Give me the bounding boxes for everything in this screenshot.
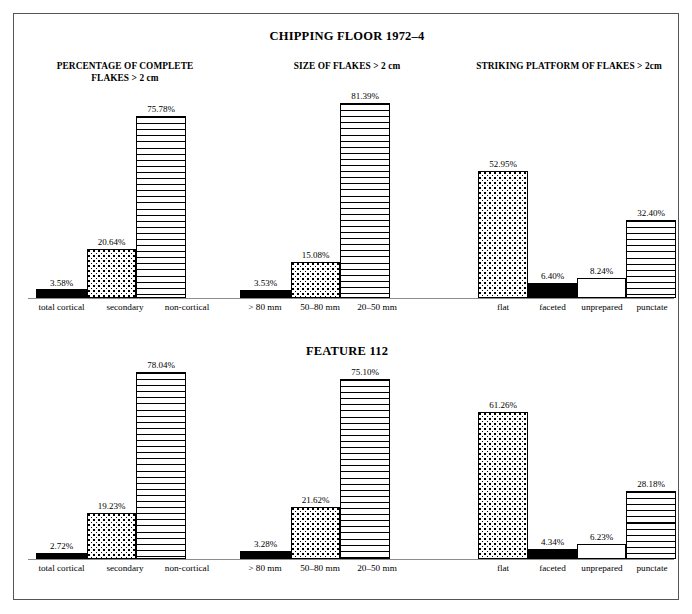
- value-label-20-50mm: 75.10%: [340, 367, 390, 377]
- value-label-flat: 61.26%: [478, 400, 528, 410]
- cat-label-secondary: secondary: [94, 563, 156, 574]
- value-label-punctate: 28.18%: [626, 479, 676, 489]
- chart-striking-platform-top: 52.95% 6.40% 8.24% 32.40% flat faceted u…: [458, 14, 680, 314]
- value-label-faceted: 4.34%: [528, 537, 577, 547]
- bar-unprepared[interactable]: [577, 544, 626, 559]
- bar-gt-80mm[interactable]: [240, 290, 291, 299]
- cat-label-flat: flat: [478, 563, 528, 574]
- cat-label-unprepared: unprepared: [571, 563, 633, 574]
- chart-percentage-complete-bottom: 2.72% 19.23% 78.04% total cortical secon…: [14, 314, 236, 601]
- cat-label-20-50mm: 20–50 mm: [346, 302, 408, 313]
- value-label-20-50mm: 81.39%: [340, 91, 390, 101]
- chart-size-of-flakes-top: 3.53% 15.08% 81.39% > 80 mm 50–80 mm 20–…: [236, 14, 458, 314]
- value-label-faceted: 6.40%: [528, 271, 577, 281]
- value-label-unprepared: 8.24%: [577, 266, 626, 276]
- bar-punctate[interactable]: [626, 220, 676, 298]
- bar-20-50mm[interactable]: [340, 103, 390, 298]
- value-label-50-80mm: 21.62%: [291, 495, 340, 505]
- cat-label-secondary: secondary: [94, 302, 156, 313]
- panel-chipping-floor: CHIPPING FLOOR 1972–4 PERCENTAGE OF COMP…: [14, 14, 680, 314]
- value-label-secondary: 19.23%: [87, 501, 136, 511]
- cat-label-flat: flat: [478, 302, 528, 313]
- bar-secondary[interactable]: [87, 249, 136, 299]
- bar-faceted[interactable]: [528, 283, 577, 298]
- value-label-unprepared: 6.23%: [577, 532, 626, 542]
- bar-flat[interactable]: [478, 412, 528, 559]
- cat-label-non-cortical: non-cortical: [152, 563, 222, 574]
- bar-50-80mm[interactable]: [291, 262, 340, 298]
- value-label-total-cortical: 3.58%: [36, 278, 87, 288]
- bar-20-50mm[interactable]: [340, 379, 390, 559]
- cat-label-punctate: punctate: [625, 302, 679, 313]
- value-label-50-80mm: 15.08%: [291, 250, 340, 260]
- bar-total-cortical[interactable]: [36, 553, 87, 560]
- panel-feature-112: FEATURE 112 2.72% 19.23% 78.04% total co…: [14, 314, 680, 601]
- figure-frame: CHIPPING FLOOR 1972–4 PERCENTAGE OF COMP…: [13, 13, 679, 600]
- cat-label-20-50mm: 20–50 mm: [346, 563, 408, 574]
- bar-faceted[interactable]: [528, 549, 577, 559]
- bar-secondary[interactable]: [87, 513, 136, 559]
- cat-label-50-80mm: 50–80 mm: [289, 302, 351, 313]
- value-label-punctate: 32.40%: [626, 208, 676, 218]
- bar-non-cortical[interactable]: [136, 372, 186, 559]
- value-label-non-cortical: 78.04%: [136, 360, 186, 370]
- figure-page: CHIPPING FLOOR 1972–4 PERCENTAGE OF COMP…: [0, 0, 692, 614]
- cat-label-gt-80mm: > 80 mm: [234, 563, 296, 574]
- bar-non-cortical[interactable]: [136, 116, 186, 298]
- cat-label-total-cortical: total cortical: [26, 563, 97, 574]
- cat-label-total-cortical: total cortical: [26, 302, 97, 313]
- value-label-flat: 52.95%: [478, 159, 528, 169]
- cat-label-punctate: punctate: [625, 563, 679, 574]
- cat-label-non-cortical: non-cortical: [152, 302, 222, 313]
- chart-percentage-complete-top: 3.58% 20.64% 75.78% total cortical secon…: [14, 14, 236, 314]
- value-label-total-cortical: 2.72%: [36, 541, 87, 551]
- cat-label-gt-80mm: > 80 mm: [234, 302, 296, 313]
- bar-unprepared[interactable]: [577, 278, 626, 298]
- value-label-gt-80mm: 3.53%: [240, 278, 291, 288]
- cat-label-unprepared: unprepared: [571, 302, 633, 313]
- bar-punctate[interactable]: [626, 491, 676, 559]
- bar-total-cortical[interactable]: [36, 289, 87, 298]
- cat-label-50-80mm: 50–80 mm: [289, 563, 351, 574]
- value-label-non-cortical: 75.78%: [136, 104, 186, 114]
- bar-50-80mm[interactable]: [291, 507, 340, 559]
- value-label-gt-80mm: 3.28%: [240, 539, 291, 549]
- bar-flat[interactable]: [478, 171, 528, 299]
- value-label-secondary: 20.64%: [87, 237, 136, 247]
- bar-gt-80mm[interactable]: [240, 551, 291, 559]
- chart-striking-platform-bottom: 61.26% 4.34% 6.23% 28.18% flat faceted u…: [458, 314, 680, 601]
- chart-size-of-flakes-bottom: 3.28% 21.62% 75.10% > 80 mm 50–80 mm 20–…: [236, 314, 458, 601]
